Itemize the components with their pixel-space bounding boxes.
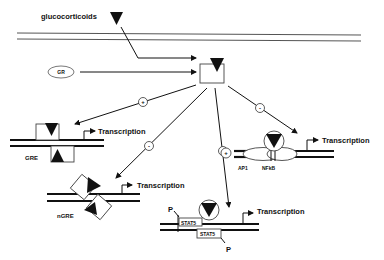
ligand-label: glucocorticoids xyxy=(41,12,97,21)
nfkb-label: NFkB xyxy=(262,165,275,171)
ap1-nfkb-element xyxy=(234,131,334,161)
gre-transcription-label: Transcription xyxy=(98,127,146,136)
gre-arrow xyxy=(75,85,196,124)
glucocorticoid-pathway-diagram: glucocorticoids GR + - + - Transc xyxy=(0,0,384,260)
gre-label: GRE xyxy=(25,155,38,161)
svg-text:+: + xyxy=(224,150,228,156)
cell-membrane xyxy=(17,33,361,41)
ngre-transcription-label: Transcription xyxy=(137,181,185,190)
phospho-top-label: P xyxy=(168,205,173,214)
svg-text:+: + xyxy=(141,99,145,105)
gr-label: GR xyxy=(57,69,65,75)
stat5-transcription-label: Transcription xyxy=(257,207,305,216)
ngre-label: nGRE xyxy=(57,213,74,219)
stat5-bottom-label: STAT5 xyxy=(200,231,215,237)
nfkb-transcription-label: Transcription xyxy=(322,136,370,145)
ligand-entry-arrow xyxy=(121,27,196,58)
gr-ligand-complex xyxy=(200,58,224,83)
svg-text:-: - xyxy=(148,143,150,149)
glucocorticoid-ligand-icon xyxy=(110,12,123,25)
stat5-top-label: STAT5 xyxy=(181,220,196,226)
gr-receptor: GR xyxy=(48,66,74,78)
stat5-element xyxy=(160,200,259,243)
ap1-label: AP1 xyxy=(238,165,248,171)
svg-text:-: - xyxy=(259,105,261,111)
phospho-bottom-label: P xyxy=(226,245,231,254)
